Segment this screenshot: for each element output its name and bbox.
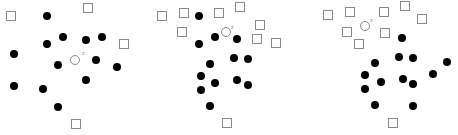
dot-point [10,50,18,58]
dot-point [59,33,67,41]
dot-point [244,55,252,63]
dot-point [82,76,90,84]
dot-point [230,54,238,62]
square-point [343,28,352,37]
square-point [236,3,245,12]
dot-point [443,58,451,66]
dot-point [197,86,205,94]
dot-point [429,70,437,78]
dot-point [82,36,90,44]
square-point [120,40,129,49]
dot-point [43,40,51,48]
dot-point [54,103,62,111]
panel-3: z [324,2,452,128]
dot-point [244,81,252,89]
dot-point [10,82,18,90]
panel-1: z [7,4,129,129]
square-point [346,8,355,17]
dot-point [361,71,369,79]
square-point [389,119,398,128]
square-point [158,12,167,21]
dot-point [211,33,219,41]
dot-point [395,53,403,61]
dot-point [399,75,407,83]
dot-point [206,60,214,68]
square-point [355,40,364,49]
query-point [222,28,231,37]
square-point [215,9,224,18]
square-point [223,119,232,128]
square-point [381,29,390,38]
square-point [272,39,281,48]
square-point [72,120,81,129]
square-point [7,12,16,21]
square-point [178,28,187,37]
dot-point [195,40,203,48]
query-label: z [370,17,373,23]
query-point [361,22,370,31]
scatter-figure: zzz [0,0,458,135]
square-point [253,35,262,44]
dot-point [409,80,417,88]
dot-point [195,12,203,20]
square-point [418,15,427,24]
square-point [401,2,410,11]
panel-2: z [158,3,281,128]
query-label: z [82,50,85,56]
square-point [180,9,189,18]
dot-point [113,63,121,71]
dot-point [92,56,100,64]
dot-point [39,85,47,93]
dot-point [361,85,369,93]
dot-point [398,34,406,42]
query-label: z [231,24,234,30]
dot-point [43,12,51,20]
dot-point [409,54,417,62]
dot-point [197,72,205,80]
dot-point [233,35,241,43]
square-point [380,8,389,17]
square-point [256,21,265,30]
dot-point [377,78,385,86]
dot-point [409,102,417,110]
dot-point [371,59,379,67]
dot-point [98,33,106,41]
dot-point [233,76,241,84]
dot-point [211,79,219,87]
dot-point [206,102,214,110]
square-point [84,4,93,13]
query-point [71,56,80,65]
dot-point [371,101,379,109]
dot-point [54,61,62,69]
square-point [324,11,333,20]
